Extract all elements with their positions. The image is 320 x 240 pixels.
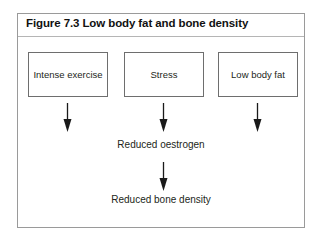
node-reduced-oestrogen: Reduced oestrogen: [18, 139, 304, 150]
arrow-down-icon: [252, 103, 263, 132]
node-low-body-fat: Low body fat: [218, 52, 298, 97]
node-label: Intense exercise: [33, 68, 102, 81]
node-stress: Stress: [124, 52, 204, 97]
figure-title: Figure 7.3 Low body fat and bone density: [26, 17, 248, 29]
figure-title-bar: Figure 7.3 Low body fat and bone density: [18, 14, 304, 37]
figure-frame: Figure 7.3 Low body fat and bone density…: [17, 13, 305, 228]
arrow-down-icon: [62, 103, 73, 132]
node-label: Low body fat: [231, 68, 285, 81]
node-intense-exercise: Intense exercise: [28, 52, 108, 97]
arrow-down-icon: [158, 162, 169, 191]
arrow-down-icon: [158, 103, 169, 132]
node-reduced-bone-density: Reduced bone density: [18, 194, 304, 205]
node-label: Stress: [151, 68, 178, 81]
